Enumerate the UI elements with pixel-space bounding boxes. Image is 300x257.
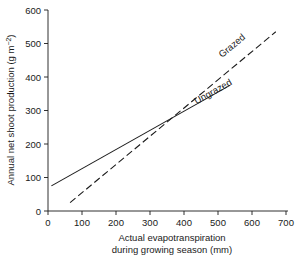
x-tick-label: 300 (142, 217, 158, 228)
svg-text:Annual net shoot production (g: Annual net shoot production (g m−2) (5, 34, 16, 185)
x-tick-label: 700 (278, 217, 294, 228)
series-label-grazed: Grazed (216, 31, 247, 59)
y-axis-title: Annual net shoot production (g m−2) (5, 34, 16, 185)
x-tick-label: 100 (74, 217, 90, 228)
x-axis-title-line2: during growing season (mm) (112, 244, 232, 255)
y-tick-label: 400 (25, 72, 41, 83)
x-tick-label: 200 (108, 217, 124, 228)
y-tick-label: 300 (25, 105, 41, 116)
x-axis-tick-labels: 0 100 200 300 400 500 600 700 (45, 217, 294, 228)
x-tick-label: 0 (45, 217, 50, 228)
series-label-ungrazed-group: Ungrazed (192, 76, 233, 106)
y-tick-label: 200 (25, 139, 41, 150)
series-label-grazed-group: Grazed (216, 31, 247, 59)
y-tick-label: 0 (36, 206, 41, 217)
y-axis-title-close: ) (5, 34, 16, 37)
series-label-ungrazed: Ungrazed (192, 76, 233, 106)
y-axis-title-main: Annual net shoot production (g m (5, 46, 16, 186)
y-tick-label: 600 (25, 5, 41, 16)
x-tick-label: 400 (176, 217, 192, 228)
x-axis-ticks (48, 211, 286, 215)
x-axis-title-line1: Actual evapotranspiration (118, 232, 225, 243)
series-lines (51, 32, 275, 203)
x-tick-label: 500 (210, 217, 226, 228)
y-tick-label: 100 (25, 172, 41, 183)
chart-figure: 600 500 400 300 200 100 0 0 100 200 300 … (0, 0, 300, 257)
x-tick-label: 600 (244, 217, 260, 228)
y-axis-ticks (44, 10, 48, 211)
y-axis-title-exponent: −2 (5, 38, 12, 46)
y-axis-tick-labels: 600 500 400 300 200 100 0 (25, 5, 41, 217)
chart-plot-area: 600 500 400 300 200 100 0 0 100 200 300 … (0, 0, 300, 257)
y-tick-label: 500 (25, 38, 41, 49)
